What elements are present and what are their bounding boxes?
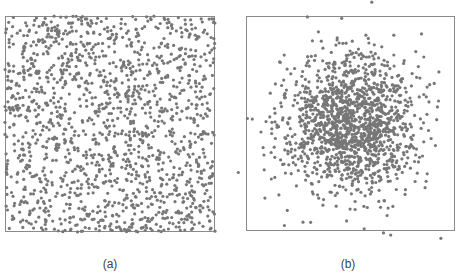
data-point [359,156,362,159]
data-point [353,56,356,59]
data-point [333,156,336,159]
data-point [360,57,363,60]
data-point [322,116,325,119]
data-point [308,116,311,119]
data-point [304,179,307,182]
data-point [280,84,283,87]
data-point [344,92,347,95]
data-point [359,169,362,172]
data-point [337,113,340,116]
data-point [402,151,405,154]
data-point [262,153,265,156]
data-point [355,118,358,121]
data-point [342,185,345,188]
data-point [349,64,352,67]
data-point [300,124,303,127]
data-point [318,76,321,79]
data-point [347,131,350,134]
data-point [380,84,383,87]
data-point [406,109,409,112]
data-point [406,105,409,108]
data-point [371,102,374,105]
data-point [304,104,307,107]
data-point [376,103,379,106]
data-point [326,150,329,153]
data-point [286,134,289,137]
data-point [396,177,399,180]
data-point [274,137,277,140]
data-point [380,178,383,181]
data-point [375,147,378,150]
data-point [392,154,395,157]
data-point [371,63,374,66]
data-point [338,66,341,69]
data-point [371,132,374,135]
data-point [418,156,421,159]
data-point [319,136,322,139]
data-point [385,84,388,87]
data-point [416,172,419,175]
data-point [283,148,286,151]
data-point [426,172,429,175]
data-point [285,142,288,145]
data-point [364,157,367,160]
data-point [405,145,408,148]
data-point [340,126,343,129]
data-point [331,81,334,84]
data-point [273,120,276,123]
data-point [362,142,365,145]
data-point [321,59,324,62]
data-point [329,173,332,176]
data-point [329,158,332,161]
data-point [367,37,370,40]
data-point [356,177,359,180]
data-point [404,86,407,89]
data-point [369,174,372,177]
data-point [323,147,326,150]
data-point [346,117,349,120]
data-point [372,138,375,141]
data-point [326,104,329,107]
data-point [279,158,282,161]
data-point [327,130,330,133]
data-point [357,69,360,72]
data-point [377,106,380,109]
data-point [317,156,320,159]
data-point [326,156,329,159]
data-point [339,152,342,155]
data-point [328,66,331,69]
data-point [351,90,354,93]
data-point [323,170,326,173]
data-point [262,146,265,149]
data-point [304,129,307,132]
data-point [338,41,341,44]
data-point [367,168,370,171]
data-point [373,141,376,144]
data-point [383,77,386,80]
data-point [349,116,352,119]
data-point [311,39,314,42]
data-point [376,97,379,100]
data-point [428,83,431,86]
data-point [400,128,403,131]
data-point [237,171,240,174]
data-point [325,108,328,111]
data-point [359,117,362,120]
data-point [347,103,350,106]
data-point [406,156,409,159]
data-point [300,75,303,78]
data-point [339,100,342,103]
data-point [342,86,345,89]
data-point [373,43,376,46]
data-point [387,139,390,142]
data-point [315,152,318,155]
data-point [349,69,352,72]
data-point [316,74,319,77]
data-point [427,100,430,103]
data-point [336,156,339,159]
data-point [383,64,386,67]
data-point [398,165,401,168]
data-point [281,116,284,119]
data-point [430,137,433,140]
data-point [325,162,328,165]
